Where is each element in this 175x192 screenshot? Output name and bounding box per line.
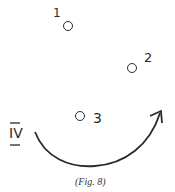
figure-caption: (Fig. 8): [75, 176, 106, 187]
arrow-icon: [0, 0, 175, 192]
